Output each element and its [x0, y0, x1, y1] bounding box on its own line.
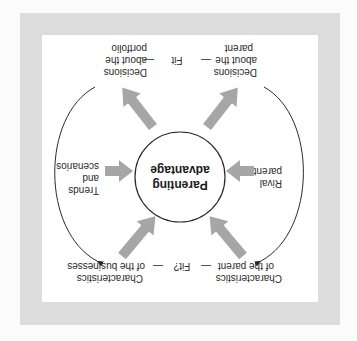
dash-right-top: —	[153, 261, 163, 272]
characteristics-parent-line1: Characteristics	[216, 273, 282, 284]
characteristics-businesses-line1: Characteristics	[77, 273, 143, 284]
fit-question-label: Fit?	[173, 261, 190, 272]
arrow-decisions-portfolio	[114, 81, 162, 134]
arrow-characteristics-businesses	[114, 209, 164, 263]
decisions-parent-line3: parent	[224, 43, 253, 54]
trends-line1: Trends	[68, 185, 99, 196]
trends-line2: and	[82, 173, 99, 184]
decisions-parent-line1: Decisions	[214, 67, 257, 78]
arrow-trends-scenarios	[105, 160, 133, 182]
center-label-line2: advantage	[150, 163, 210, 177]
decisions-portfolio-line2: about the	[105, 55, 147, 66]
dash-left-top: —	[201, 261, 211, 272]
rival-parents-line1: Rival	[260, 178, 282, 189]
trends-line3: scenarios	[56, 161, 99, 172]
center-circle	[135, 132, 225, 222]
fit-label: Fit	[171, 55, 182, 66]
dash-left-bottom: —	[201, 55, 211, 66]
parenting-advantage-diagram: Parenting advantage Characteristics of t…	[0, 0, 357, 341]
decisions-portfolio-line3: portfolio	[111, 43, 147, 54]
bottom-row: Decisions about the parent — Fit — Decis…	[104, 43, 257, 78]
center-label-line1: Parenting	[152, 178, 207, 192]
arrow-decisions-parent	[198, 81, 246, 134]
characteristics-businesses-line2: of the businesses	[67, 261, 145, 272]
diagram-page: Parenting advantage Characteristics of t…	[0, 0, 357, 341]
decisions-portfolio-line1: Decisions	[104, 67, 147, 78]
arrow-characteristics-parent	[201, 209, 251, 263]
decisions-parent-line2: about the	[215, 55, 257, 66]
arrow-rival-parents	[226, 160, 254, 182]
characteristics-parent-line2: of the parent	[218, 261, 274, 272]
top-row: Characteristics of the parent — Fit? — C…	[67, 261, 282, 284]
outflow-arrows	[114, 81, 247, 134]
